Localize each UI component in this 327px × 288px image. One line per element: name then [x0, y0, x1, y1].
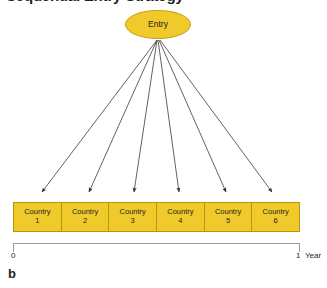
country-box-4[interactable]: Country 4: [157, 203, 205, 231]
country-box-number: 3: [131, 217, 135, 226]
country-box-number: 4: [178, 217, 182, 226]
country-box-1[interactable]: Country 1: [14, 203, 62, 231]
arrow-to-country-2: [89, 40, 157, 192]
arrow-to-country-6: [160, 40, 272, 192]
figure-panel: Sequential Entry Strategy Entry Country …: [0, 0, 327, 288]
entry-node[interactable]: Entry: [125, 10, 191, 39]
country-box-number: 2: [83, 217, 87, 226]
figure-title: Sequential Entry Strategy: [6, 0, 306, 5]
arrow-to-country-3: [134, 40, 157, 192]
country-box-6[interactable]: Country 6: [252, 203, 299, 231]
country-box-2[interactable]: Country 2: [62, 203, 110, 231]
timeline-unit-label: Year: [305, 251, 321, 260]
panel-letter: b: [8, 266, 16, 281]
country-box-number: 1: [35, 217, 39, 226]
country-box-3[interactable]: Country 3: [109, 203, 157, 231]
entry-node-label: Entry: [148, 20, 168, 29]
arrow-to-country-4: [158, 40, 179, 192]
timeline-end-label: 1: [296, 251, 300, 260]
country-boxes-row: Country 1 Country 2 Country 3 Country 4 …: [13, 202, 300, 232]
arrow-to-country-1: [42, 40, 157, 192]
timeline-axis: [13, 243, 300, 252]
arrow-to-country-5: [159, 40, 226, 192]
country-box-number: 6: [274, 217, 278, 226]
timeline-start-label: 0: [11, 251, 15, 260]
country-box-5[interactable]: Country 5: [205, 203, 253, 231]
country-box-number: 5: [226, 217, 230, 226]
